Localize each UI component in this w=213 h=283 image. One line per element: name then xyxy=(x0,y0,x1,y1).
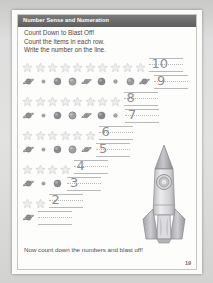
instructions-block: Count Down to Blast Off! Count the items… xyxy=(24,29,174,55)
handwritten-answer: 4 xyxy=(77,158,85,173)
counting-row: 9 xyxy=(22,73,194,90)
row-items xyxy=(22,192,46,209)
handwritten-answer: 7 xyxy=(128,107,136,122)
answer-line[interactable]: 9 xyxy=(154,74,188,89)
star-icon xyxy=(22,93,33,104)
planet-icon xyxy=(66,109,79,122)
star-icon xyxy=(85,93,96,104)
star-icon xyxy=(35,127,46,138)
handwritten-answer: 6 xyxy=(102,124,110,139)
row-items xyxy=(22,90,121,107)
planet-icon xyxy=(37,143,50,156)
footer-instruction: Now count down the numbers and blast off… xyxy=(24,246,143,253)
star-icon xyxy=(60,59,71,70)
answer-line[interactable]: 8 xyxy=(124,91,158,106)
planet-icon xyxy=(51,143,64,156)
star-icon xyxy=(22,127,33,138)
planet-icon xyxy=(37,75,50,88)
star-icon xyxy=(22,59,33,70)
answer-line[interactable]: 10 xyxy=(149,57,183,72)
row-items xyxy=(22,73,151,90)
answer-line[interactable]: 7 xyxy=(125,108,159,123)
handwritten-answer: 2 xyxy=(52,192,60,207)
star-icon xyxy=(85,127,96,138)
planet-icon xyxy=(51,75,64,88)
planet-icon xyxy=(37,109,50,122)
worksheet-page-border: Number Sense and Numeration Count Down t… xyxy=(17,14,197,270)
star-icon xyxy=(35,195,46,206)
ringed-planet-icon xyxy=(80,143,93,156)
handwritten-answer: 10 xyxy=(152,56,169,71)
handwritten-answer: 9 xyxy=(157,73,165,88)
writing-guide-line xyxy=(38,217,72,218)
planet-icon xyxy=(95,75,108,88)
answer-line[interactable]: 5 xyxy=(96,142,130,157)
handwritten-answer: 8 xyxy=(127,90,135,105)
star-icon xyxy=(72,59,83,70)
star-icon xyxy=(47,127,58,138)
star-icon xyxy=(22,195,33,206)
row-items xyxy=(22,56,146,73)
star-icon xyxy=(47,59,58,70)
ringed-planet-icon xyxy=(22,211,35,224)
star-icon xyxy=(110,59,121,70)
counting-row: 7 xyxy=(22,107,194,124)
star-icon xyxy=(60,127,71,138)
planet-icon xyxy=(66,143,79,156)
answer-line[interactable]: 2 xyxy=(49,193,83,208)
writing-guide-lines xyxy=(38,210,72,225)
counting-row: 6 xyxy=(22,124,194,141)
star-icon xyxy=(97,93,108,104)
handwritten-answer: 5 xyxy=(99,141,107,156)
planet-icon xyxy=(66,75,79,88)
star-icon xyxy=(35,161,46,172)
row-items xyxy=(22,141,93,158)
row-items xyxy=(22,175,64,192)
planet-icon xyxy=(95,109,108,122)
answer-line[interactable]: 3 xyxy=(67,176,101,191)
star-icon xyxy=(47,93,58,104)
worksheet-screenshot: Number Sense and Numeration Count Down t… xyxy=(0,0,213,283)
answer-line[interactable]: 4 xyxy=(74,159,108,174)
activity-title: Count Down to Blast Off! xyxy=(24,29,174,38)
star-icon xyxy=(47,161,58,172)
planet-icon xyxy=(51,109,64,122)
answer-line[interactable] xyxy=(38,210,72,225)
ringed-planet-icon xyxy=(80,109,93,122)
worksheet-page: Number Sense and Numeration Count Down t… xyxy=(12,10,202,274)
ringed-planet-icon xyxy=(138,75,151,88)
writing-guide-line xyxy=(38,224,72,225)
instruction-line-2: Write the number on the line. xyxy=(24,46,174,55)
page-title: Number Sense and Numeration xyxy=(23,17,109,23)
star-icon xyxy=(35,93,46,104)
planet-icon xyxy=(109,109,122,122)
row-items xyxy=(22,158,71,175)
star-icon xyxy=(122,59,133,70)
ringed-planet-icon xyxy=(80,75,93,88)
counting-row: 8 xyxy=(22,90,194,107)
row-items xyxy=(22,209,35,226)
rocket-icon xyxy=(138,143,190,247)
star-icon xyxy=(97,59,108,70)
counting-row: 10 xyxy=(22,56,194,73)
answer-line[interactable]: 6 xyxy=(99,125,133,140)
row-items xyxy=(22,107,122,124)
star-icon xyxy=(72,93,83,104)
ringed-planet-icon xyxy=(22,109,35,122)
planet-icon xyxy=(37,177,50,190)
star-icon xyxy=(60,161,71,172)
ringed-planet-icon xyxy=(22,177,35,190)
star-icon xyxy=(60,93,71,104)
writing-guide-line xyxy=(38,211,72,212)
instruction-line-1: Count the items in each row. xyxy=(24,38,174,47)
star-icon xyxy=(110,93,121,104)
planet-icon xyxy=(109,75,122,88)
star-icon xyxy=(72,127,83,138)
page-number: 19 xyxy=(185,260,191,266)
star-icon xyxy=(35,59,46,70)
handwritten-answer: 3 xyxy=(70,175,78,190)
planet-icon xyxy=(124,75,137,88)
row-items xyxy=(22,124,96,141)
ringed-planet-icon xyxy=(22,143,35,156)
ringed-planet-icon xyxy=(22,75,35,88)
